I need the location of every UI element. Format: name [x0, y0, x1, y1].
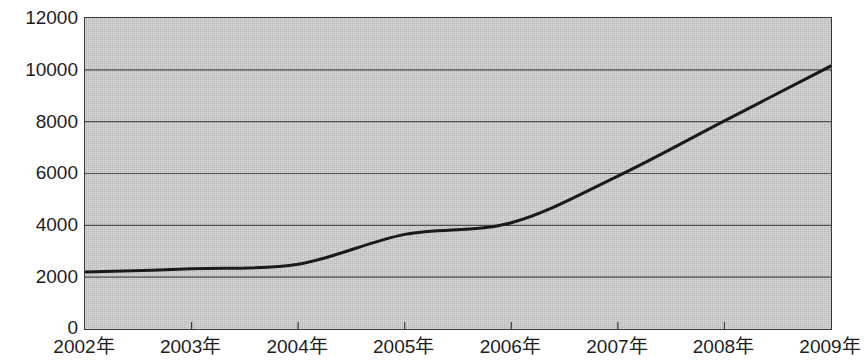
- data-series-layer: [85, 18, 831, 329]
- y-tick-label: 0: [0, 318, 78, 337]
- y-tick-label: 10000: [0, 60, 78, 79]
- x-tick-label: 2005年: [344, 336, 464, 358]
- x-tick-label: 2008年: [663, 336, 783, 358]
- x-tick-label: 2002年: [24, 336, 144, 358]
- y-tick-label: 2000: [0, 267, 78, 286]
- x-tick-label: 2003年: [131, 336, 251, 358]
- x-axis: 2002年 2003年 2004年 2005年 2006年 2007年 2008…: [0, 336, 859, 361]
- series-line: [85, 66, 831, 272]
- x-tick-label: 2009年: [770, 336, 865, 358]
- plot-area: [84, 17, 832, 330]
- y-axis: 12000 10000 8000 6000 4000 2000 0: [0, 0, 78, 361]
- y-tick-label: 4000: [0, 215, 78, 234]
- x-tick-label: 2007年: [557, 336, 677, 358]
- x-tick-label: 2006年: [450, 336, 570, 358]
- x-tick-label: 2004年: [237, 336, 357, 358]
- y-tick-label: 6000: [0, 163, 78, 182]
- y-tick-label: 8000: [0, 112, 78, 131]
- y-tick-label: 12000: [0, 8, 78, 27]
